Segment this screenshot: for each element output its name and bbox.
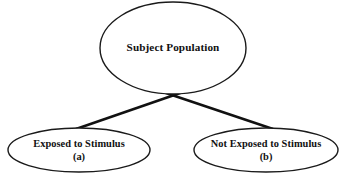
node-not-exposed-label: Not Exposed to Stimulus	[211, 138, 322, 149]
diagram-canvas: Subject Population Exposed to Stimulus (…	[0, 0, 345, 176]
edge-root-to-not-exposed	[163, 92, 273, 129]
node-exposed-label: Exposed to Stimulus	[33, 138, 125, 149]
node-not-exposed-sublabel: (b)	[260, 151, 273, 163]
node-exposed[interactable]: Exposed to Stimulus (a)	[8, 128, 150, 172]
edge-root-to-exposed	[76, 92, 183, 129]
node-root[interactable]: Subject Population	[100, 2, 246, 94]
node-not-exposed[interactable]: Not Exposed to Stimulus (b)	[194, 128, 338, 172]
node-exposed-ellipse	[8, 128, 150, 172]
node-root-label: Subject Population	[127, 41, 221, 53]
node-not-exposed-ellipse	[194, 128, 338, 172]
diagram-svg: Subject Population Exposed to Stimulus (…	[0, 0, 345, 176]
node-exposed-sublabel: (a)	[73, 151, 85, 163]
